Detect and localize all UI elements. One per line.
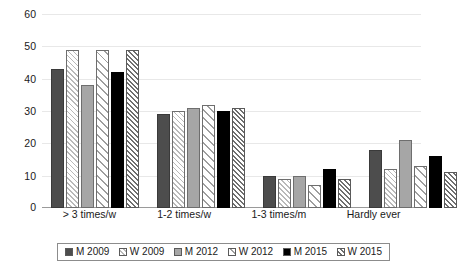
bar bbox=[111, 72, 124, 208]
bar bbox=[369, 150, 382, 208]
bar bbox=[202, 105, 215, 208]
legend-label: M 2009 bbox=[76, 247, 109, 257]
legend-swatch-icon bbox=[283, 248, 291, 256]
y-axis-tick-0: 0 bbox=[30, 202, 42, 213]
bar bbox=[308, 185, 321, 208]
x-axis-labels: > 3 times/w1-2 times/w1-3 times/mHardly … bbox=[42, 209, 421, 221]
y-axis-tick-30: 30 bbox=[24, 106, 42, 117]
bar bbox=[172, 111, 185, 208]
legend-swatch-icon bbox=[174, 248, 182, 256]
bar-groups bbox=[42, 14, 421, 208]
x-axis-tick-label: 1-2 times/w bbox=[137, 209, 232, 221]
bar bbox=[126, 50, 139, 208]
bar bbox=[399, 140, 412, 208]
legend-label: M 2015 bbox=[294, 247, 327, 257]
y-axis-tick-40: 40 bbox=[24, 73, 42, 84]
y-axis-tick-60: 60 bbox=[24, 9, 42, 20]
bar bbox=[66, 50, 79, 208]
legend-item[interactable]: M 2009 bbox=[65, 247, 109, 257]
legend-item[interactable]: W 2015 bbox=[337, 247, 382, 257]
legend-label: W 2012 bbox=[239, 247, 273, 257]
bar-group bbox=[254, 14, 360, 208]
legend-swatch-icon bbox=[337, 248, 345, 256]
bar bbox=[384, 169, 397, 208]
legend-label: W 2009 bbox=[130, 247, 164, 257]
bar bbox=[157, 114, 170, 208]
plot-area: 60 50 40 30 20 10 0 bbox=[42, 14, 421, 208]
bar bbox=[187, 108, 200, 208]
bar bbox=[81, 85, 94, 208]
y-axis-tick-10: 10 bbox=[24, 170, 42, 181]
legend-swatch-icon bbox=[65, 248, 73, 256]
bar-group bbox=[360, 14, 461, 208]
y-axis-tick-20: 20 bbox=[24, 138, 42, 149]
bar bbox=[51, 69, 64, 208]
chart-legend: M 2009W 2009M 2012W 2012M 2015W 2015 bbox=[57, 243, 390, 261]
legend-item[interactable]: W 2012 bbox=[228, 247, 273, 257]
y-axis-tick-50: 50 bbox=[24, 41, 42, 52]
legend-swatch-icon bbox=[119, 248, 127, 256]
bar bbox=[278, 179, 291, 208]
bar-group bbox=[42, 14, 148, 208]
bar bbox=[323, 169, 336, 208]
legend-item[interactable]: M 2015 bbox=[283, 247, 327, 257]
bar bbox=[96, 50, 109, 208]
bar bbox=[338, 179, 351, 208]
legend-item[interactable]: M 2012 bbox=[174, 247, 218, 257]
x-axis-tick-label: Hardly ever bbox=[326, 209, 421, 221]
x-axis-tick-label: > 3 times/w bbox=[42, 209, 137, 221]
legend-swatch-icon bbox=[228, 248, 236, 256]
bar bbox=[444, 172, 457, 208]
bar bbox=[293, 176, 306, 208]
bar-group bbox=[148, 14, 254, 208]
bar bbox=[217, 111, 230, 208]
legend-label: M 2012 bbox=[185, 247, 218, 257]
legend-item[interactable]: W 2009 bbox=[119, 247, 164, 257]
bar bbox=[232, 108, 245, 208]
x-axis-tick-label: 1-3 times/m bbox=[232, 209, 327, 221]
bar bbox=[263, 176, 276, 208]
bar bbox=[414, 166, 427, 208]
legend-label: W 2015 bbox=[348, 247, 382, 257]
bar bbox=[429, 156, 442, 208]
